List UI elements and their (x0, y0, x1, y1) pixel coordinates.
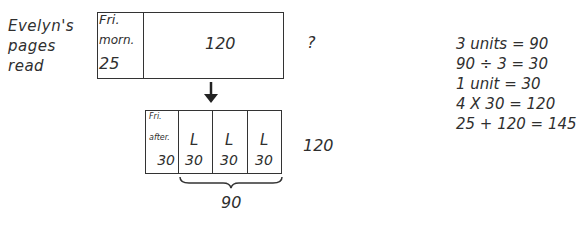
unit-letter: L (225, 131, 233, 149)
step: 3 units = 90 (456, 34, 577, 54)
step: 1 unit = 30 (456, 74, 577, 94)
unit-letter: L (260, 131, 268, 149)
unit-value: 25 (99, 54, 119, 73)
top-total-unknown: ? (307, 33, 316, 52)
bar-label: Evelyn's pages read (8, 16, 74, 76)
unit-value: 30 (255, 152, 273, 168)
down-arrow-icon (203, 82, 219, 104)
label-line: read (8, 56, 74, 76)
top-rest-value: 120 (205, 34, 236, 53)
unit-value: 30 (185, 152, 203, 168)
step: 90 ÷ 3 = 30 (456, 54, 577, 74)
bottom-first-unit: Fri. after. 30 (145, 110, 179, 174)
bottom-unit: L 30 (213, 110, 248, 174)
unit-time: after. (149, 133, 170, 142)
top-first-unit: Fri. morn. 25 (97, 12, 144, 79)
unit-day: Fri. (99, 12, 120, 27)
step: 25 + 120 = 145 (456, 114, 577, 134)
unit-value: 30 (220, 152, 238, 168)
unit-value: 30 (157, 152, 175, 168)
brace-label: 90 (221, 193, 241, 212)
label-line: Evelyn's (8, 16, 74, 36)
brace-icon (179, 176, 283, 190)
bottom-unit: L 30 (179, 110, 213, 174)
unit-time: morn. (99, 33, 134, 47)
bottom-total: 120 (303, 136, 334, 155)
unit-day: Fri. (149, 112, 162, 121)
step: 4 X 30 = 120 (456, 94, 577, 114)
bottom-unit: L 30 (248, 110, 282, 174)
unit-letter: L (190, 131, 198, 149)
label-line: pages (8, 36, 74, 56)
solution-steps: 3 units = 90 90 ÷ 3 = 30 1 unit = 30 4 X… (456, 34, 577, 134)
